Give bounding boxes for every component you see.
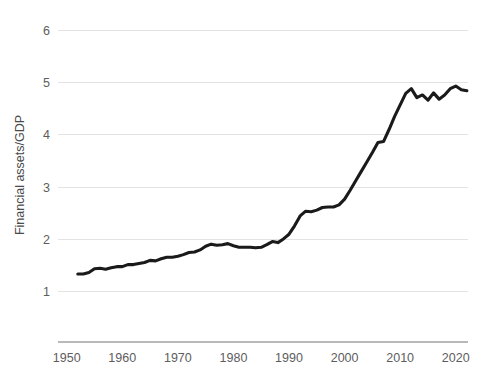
y-tick-label-6: 6 (43, 24, 50, 38)
series-line-0 (78, 86, 467, 274)
line-chart: 12345619501960197019801990200020102020Fi… (0, 0, 489, 392)
x-tick-label-1970: 1970 (164, 351, 192, 365)
x-tick-label-2010: 2010 (386, 351, 414, 365)
y-tick-label-4: 4 (43, 128, 50, 142)
y-tick-label-2: 2 (43, 233, 50, 247)
x-tick-label-1950: 1950 (53, 351, 81, 365)
y-axis-title: Financial assets/GDP (13, 115, 27, 235)
x-tick-label-1960: 1960 (108, 351, 136, 365)
x-tick-label-1990: 1990 (275, 351, 303, 365)
x-tick-label-2000: 2000 (331, 351, 359, 365)
y-tick-label-3: 3 (43, 181, 50, 195)
chart-container: 12345619501960197019801990200020102020Fi… (0, 0, 489, 392)
y-tick-label-1: 1 (43, 285, 50, 299)
y-tick-label-5: 5 (43, 76, 50, 90)
x-tick-label-1980: 1980 (220, 351, 248, 365)
x-tick-label-2020: 2020 (442, 351, 470, 365)
